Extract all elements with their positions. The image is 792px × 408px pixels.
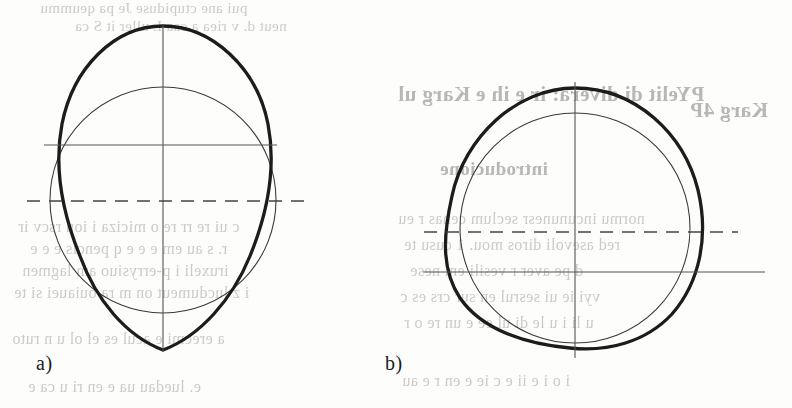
scanned-page: pui ane ctupiduse Je pa qeummuneut d. v … bbox=[0, 0, 792, 408]
figure-a-caption: a) bbox=[36, 352, 53, 375]
figure-b-profile-curve bbox=[445, 88, 702, 349]
figure-b-caption: b) bbox=[385, 352, 403, 375]
figure-b-drawing bbox=[0, 0, 792, 408]
